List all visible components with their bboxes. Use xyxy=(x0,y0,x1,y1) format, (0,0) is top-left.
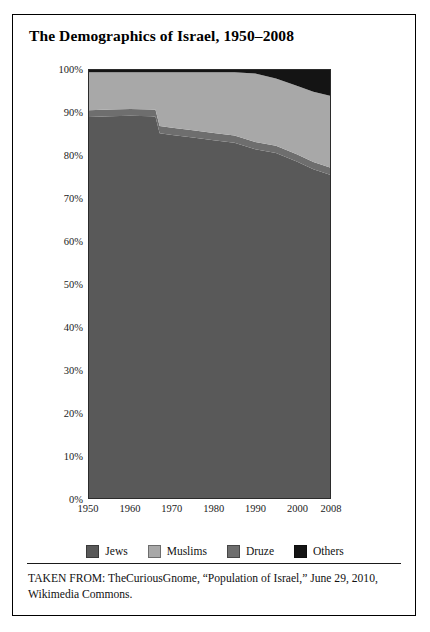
x-axis-tick: 1990 xyxy=(245,503,266,514)
area-band-jews xyxy=(89,116,330,498)
legend-item-jews: Jews xyxy=(86,545,127,558)
legend-label: Muslims xyxy=(167,545,207,557)
chart-region: 100%90%80%70%60%50%40%30%20%10%0% 195019… xyxy=(13,55,417,535)
legend-swatch-icon xyxy=(86,545,99,558)
legend-swatch-icon xyxy=(294,545,307,558)
area-chart-svg xyxy=(89,70,330,498)
stacked-area-plot xyxy=(88,69,331,499)
legend-label: Others xyxy=(313,545,344,557)
caption-divider xyxy=(27,563,401,564)
y-axis-labels: 100%90%80%70%60%50%40%30%20%10%0% xyxy=(31,69,83,499)
y-axis-tick: 10% xyxy=(37,451,83,462)
y-axis-tick: 40% xyxy=(37,322,83,333)
y-axis-tick: 80% xyxy=(37,150,83,161)
y-axis-tick: 50% xyxy=(37,279,83,290)
y-axis-tick: 20% xyxy=(37,408,83,419)
legend-swatch-icon xyxy=(148,545,161,558)
x-axis-tick: 1970 xyxy=(161,503,182,514)
legend-item-druze: Druze xyxy=(227,545,274,558)
legend-swatch-icon xyxy=(227,545,240,558)
figure-container: The Demographics of Israel, 1950–2008 10… xyxy=(12,14,416,616)
x-axis-tick: 1980 xyxy=(203,503,224,514)
legend-item-muslims: Muslims xyxy=(148,545,207,558)
x-axis-tick: 2000 xyxy=(287,503,308,514)
chart-legend: JewsMuslimsDruzeOthers xyxy=(13,539,417,563)
x-axis-tick: 1960 xyxy=(119,503,140,514)
y-axis-tick: 30% xyxy=(37,365,83,376)
legend-label: Druze xyxy=(246,545,274,557)
x-axis-tick: 2008 xyxy=(321,503,342,514)
x-axis-labels: 1950196019701980199020002008 xyxy=(88,503,331,523)
y-axis-tick: 100% xyxy=(37,64,83,75)
y-axis-tick: 60% xyxy=(37,236,83,247)
y-axis-tick: 70% xyxy=(37,193,83,204)
legend-label: Jews xyxy=(105,545,127,557)
legend-item-others: Others xyxy=(294,545,344,558)
source-caption: TAKEN FROM: TheCuriousGnome, “Population… xyxy=(28,571,402,604)
page-title: The Demographics of Israel, 1950–2008 xyxy=(29,27,294,45)
x-axis-tick: 1950 xyxy=(78,503,99,514)
y-axis-tick: 90% xyxy=(37,107,83,118)
y-axis-tick: 0% xyxy=(37,494,83,505)
area-layers xyxy=(89,70,330,498)
